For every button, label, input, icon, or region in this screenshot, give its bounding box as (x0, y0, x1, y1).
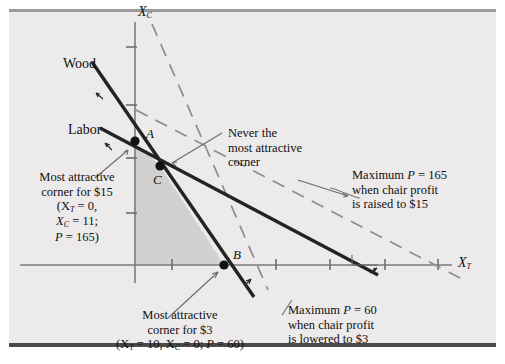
annotation-isoprofit-high-line1: Maximum P = 165 (352, 168, 447, 183)
annotation-isoprofit-high-line3: is raised to $15 (352, 197, 447, 212)
corner-point-b-dot (219, 260, 228, 269)
annotation-corner-b: Most attractive corner for $3 (XT = 10, … (100, 308, 260, 352)
annotation-corner-c: Never the most attractive corner (228, 126, 302, 170)
annotation-isoprofit-high: Maximum P = 165 when chair profit is rai… (352, 168, 447, 212)
annotation-corner-a-line1: Most attractive (18, 170, 136, 185)
annotation-corner-b-line1: Most attractive (100, 308, 260, 323)
figure-container: XC XT Wood Labor A C B Most attractive c… (0, 0, 505, 364)
wood-line-label: Wood (63, 56, 96, 72)
annotation-corner-b-line3: (XT = 10, XC = 0; P = 60) (100, 337, 260, 352)
annotation-corner-b-line2: corner for $3 (100, 323, 260, 338)
labor-line-label: Labor (68, 122, 101, 138)
corner-point-c-dot (155, 161, 164, 170)
annotation-corner-c-line3: corner (228, 155, 302, 170)
annotation-isoprofit-low-line2: when chair profit (288, 318, 377, 333)
corner-point-a-label: A (146, 126, 154, 141)
corner-point-c-label: C (153, 172, 162, 187)
annotation-isoprofit-high-line2: when chair profit (352, 183, 447, 198)
annotation-corner-a-line4: XC = 11; (18, 214, 136, 229)
annotation-corner-a-line5: P = 165) (18, 230, 136, 245)
annotation-isoprofit-low-line3: is lowered to $3 (288, 332, 377, 347)
feasible-region (135, 141, 224, 265)
corner-point-b-label: B (233, 247, 241, 262)
annotation-corner-c-line2: most attractive (228, 141, 302, 156)
annotation-corner-a: Most attractive corner for $15 (XT = 0, … (18, 170, 136, 244)
annotation-isoprofit-low-line1: Maximum P = 60 (288, 303, 377, 318)
annotation-corner-a-line2: corner for $15 (18, 185, 136, 200)
annotation-isoprofit-low: Maximum P = 60 when chair profit is lowe… (288, 303, 377, 347)
y-axis-label: XC (138, 4, 152, 20)
x-axis-label: XT (458, 255, 471, 271)
annotation-corner-c-line1: Never the (228, 126, 302, 141)
annotation-corner-a-line3: (XT = 0, (18, 199, 136, 214)
corner-point-a-dot (130, 136, 139, 145)
